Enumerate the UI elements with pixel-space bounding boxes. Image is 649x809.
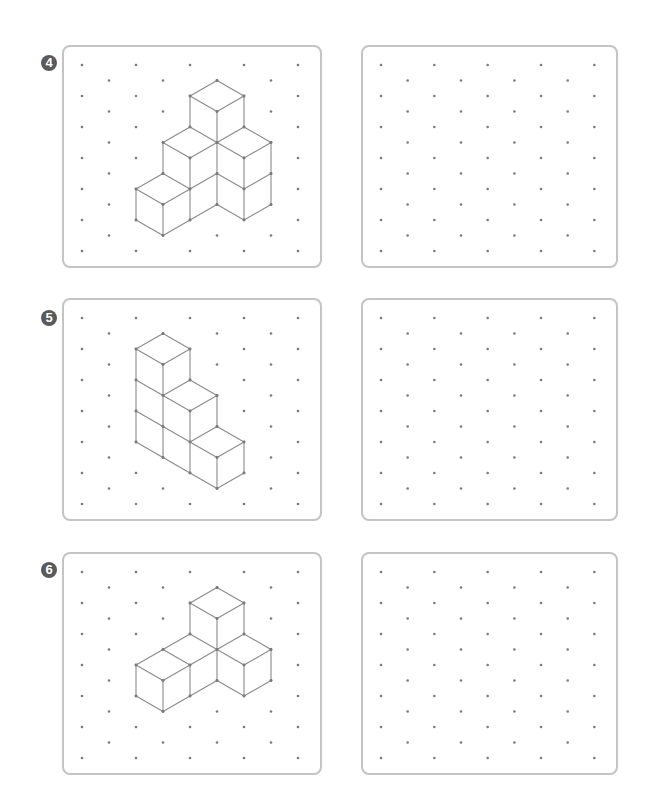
grid-dot	[406, 172, 409, 175]
grid-dot	[81, 664, 84, 667]
grid-dot	[216, 332, 219, 335]
grid-dot	[433, 726, 436, 729]
grid-dot	[433, 157, 436, 160]
drawing-panel-blank[interactable]	[361, 45, 618, 268]
grid-dot	[243, 64, 246, 67]
grid-dot	[593, 219, 596, 222]
cube-vertex	[189, 602, 192, 605]
cube-vertex	[270, 679, 273, 682]
cube-edge	[136, 665, 163, 681]
grid-dot	[243, 250, 246, 253]
grid-dot	[566, 586, 569, 589]
grid-dot	[297, 695, 300, 698]
grid-dot	[243, 348, 246, 351]
grid-dot	[460, 741, 463, 744]
grid-dot	[270, 710, 273, 713]
cube-vertex	[135, 379, 138, 382]
grid-dot	[486, 317, 489, 320]
grid-dot	[540, 410, 543, 413]
isometric-dot-grid[interactable]	[361, 298, 618, 521]
grid-dot	[540, 571, 543, 574]
cube-vertex	[135, 441, 138, 444]
grid-dot	[540, 157, 543, 160]
cube-vertex	[216, 394, 219, 397]
grid-dot	[540, 64, 543, 67]
grid-dot	[486, 188, 489, 191]
grid-dot	[460, 79, 463, 82]
grid-dot	[433, 441, 436, 444]
grid-dot	[108, 203, 111, 206]
exercise-number-badge: 5	[41, 310, 57, 326]
grid-dot	[380, 472, 383, 475]
grid-dot	[486, 664, 489, 667]
grid-dot	[540, 379, 543, 382]
grid-dot	[81, 126, 84, 129]
cube-vertex	[189, 157, 192, 160]
grid-dot	[433, 95, 436, 98]
cube-edge	[217, 634, 244, 650]
grid-dot	[243, 757, 246, 760]
grid-dot	[486, 695, 489, 698]
grid-dot	[513, 394, 516, 397]
grid-dot	[380, 633, 383, 636]
grid-dot	[380, 503, 383, 506]
grid-dot	[162, 79, 165, 82]
cube-edge	[136, 174, 163, 190]
grid-dot	[243, 317, 246, 320]
grid-dot	[81, 64, 84, 67]
grid-dot	[380, 726, 383, 729]
grid-dot	[81, 250, 84, 253]
grid-dot	[406, 586, 409, 589]
grid-dot	[486, 348, 489, 351]
grid-dot	[81, 410, 84, 413]
cube-vertex	[243, 602, 246, 605]
cube-vertex	[189, 695, 192, 698]
grid-dot	[486, 126, 489, 129]
grid-dot	[460, 332, 463, 335]
grid-dot	[108, 332, 111, 335]
grid-dot	[460, 234, 463, 237]
isometric-dot-grid[interactable]	[361, 45, 618, 268]
cube-vertex	[162, 456, 165, 459]
cube-vertex	[162, 363, 165, 366]
grid-dot	[108, 79, 111, 82]
grid-dot	[162, 741, 165, 744]
grid-dot	[460, 394, 463, 397]
grid-dot	[593, 379, 596, 382]
grid-dot	[380, 64, 383, 67]
grid-dot	[297, 664, 300, 667]
grid-dot	[81, 503, 84, 506]
grid-dot	[566, 425, 569, 428]
grid-dot	[380, 348, 383, 351]
grid-dot	[460, 141, 463, 144]
grid-dot	[270, 332, 273, 335]
grid-dot	[81, 757, 84, 760]
grid-dot	[433, 503, 436, 506]
grid-dot	[513, 110, 516, 113]
cube-vertex	[162, 648, 165, 651]
grid-dot	[513, 710, 516, 713]
grid-dot	[297, 126, 300, 129]
cube-edge	[163, 220, 190, 236]
grid-dot	[540, 219, 543, 222]
grid-dot	[108, 363, 111, 366]
grid-dot	[566, 363, 569, 366]
grid-dot	[108, 487, 111, 490]
grid-dot	[566, 203, 569, 206]
cube-edge	[163, 427, 190, 443]
grid-dot	[486, 441, 489, 444]
grid-dot	[297, 633, 300, 636]
grid-dot	[108, 648, 111, 651]
drawing-panel-blank[interactable]	[361, 298, 618, 521]
drawing-panel-blank[interactable]	[361, 552, 618, 775]
grid-dot	[189, 571, 192, 574]
grid-dot	[270, 586, 273, 589]
cube-edge	[136, 380, 163, 396]
grid-dot	[540, 317, 543, 320]
grid-dot	[540, 126, 543, 129]
grid-dot	[108, 679, 111, 682]
isometric-dot-grid[interactable]	[361, 552, 618, 775]
cube-edge	[163, 396, 190, 412]
grid-dot	[380, 219, 383, 222]
cube-vertex	[243, 188, 246, 191]
